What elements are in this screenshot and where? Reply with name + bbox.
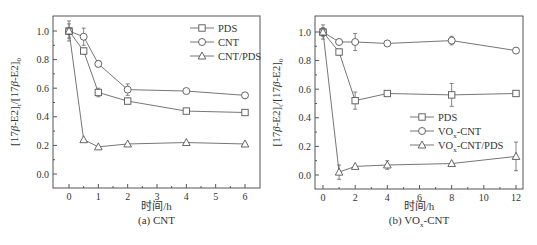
legend-label: CNT/PDS [218,51,261,62]
x-tick-label: 12 [511,192,521,203]
data-point-circle [384,40,391,47]
data-point-square [183,108,189,114]
y-tick-label: 0.6 [37,83,50,94]
data-point-circle [80,33,87,40]
y-tick-label: 1.0 [299,27,312,38]
data-point-square [352,97,358,103]
y-tick-label: 0.6 [299,84,312,95]
chart-panel-b: 0.00.20.40.60.81.0024681012时间/h(b) VOx-C… [270,16,523,229]
legend-label: PDS [218,23,237,34]
y-tick-label: 0.2 [299,141,312,152]
data-point-circle [242,92,249,99]
data-point-triangle [80,136,88,143]
data-point-triangle [183,139,191,146]
y-axis-label: [17β-E2]t/[17β-E2]0 [270,58,285,146]
legend-text-part: -CNT/PDS [457,140,504,151]
y-tick-label: 0.4 [299,112,312,123]
panel-caption: (b) VOx-CNT [389,214,450,229]
series-vox-cnt [320,25,520,54]
series-pds [320,28,519,110]
data-point-circle [95,60,102,67]
y-tick-label: 0.8 [299,55,312,66]
y-label-part: [17 [8,131,20,146]
data-point-circle [513,47,520,54]
x-tick-label: 0 [321,192,326,203]
data-point-square [80,48,86,54]
y-tick-label: 0.0 [37,169,50,180]
data-point-circle [183,88,190,95]
legend-marker-square [199,25,205,31]
series-vox-cnt-pds [319,28,520,179]
y-label-part: -E2] [270,107,282,127]
legend-label: PDS [438,112,457,123]
panel-caption: (a) CNT [138,214,175,227]
legend-marker-triangle [198,52,206,59]
x-tick-label: 2 [125,191,130,202]
legend-text-part: VO [438,140,454,151]
x-tick-label: 1 [96,191,101,202]
legend: PDSCNTCNT/PDS [190,23,261,62]
y-label-part: [17 [270,131,282,146]
chart-panel-a: 0.00.20.40.60.81.00123456时间/h(a) CNT[17β… [8,16,261,227]
legend-label: CNT [218,37,240,48]
data-point-square [336,49,342,55]
legend-marker-circle [199,39,206,46]
legend-label: VOx-CNT/PDS [438,140,504,154]
data-point-square [513,90,519,96]
x-tick-label: 4 [385,192,390,203]
y-axis-label: [17β-E2]t/[17β-E2]0 [8,58,23,146]
y-tick-label: 0.2 [37,140,50,151]
x-tick-label: 5 [213,191,218,202]
data-point-triangle [512,152,520,159]
y-label-part: /[17 [8,86,20,104]
x-axis-label: 时间/h [141,200,172,212]
legend-label: VOx-CNT [438,126,482,140]
x-tick-label: 10 [479,192,489,203]
legend-marker-square [419,114,425,120]
legend-marker-circle [419,128,426,135]
data-point-square [242,109,248,115]
data-point-square [124,98,130,104]
y-label-part: -E2] [8,62,20,82]
y-tick-label: 1.0 [37,26,50,37]
legend-text-part: -CNT [457,126,482,137]
data-point-square [448,92,454,98]
data-point-circle [124,86,131,93]
x-tick-label: 2 [353,192,358,203]
data-point-circle [352,39,359,46]
data-point-circle [336,39,343,46]
x-tick-label: 8 [449,192,454,203]
y-label-part: -E2] [8,106,20,126]
y-tick-label: 0.4 [37,111,50,122]
figure: 0.00.20.40.60.81.00123456时间/h(a) CNT[17β… [0,0,537,245]
caption-suffix: -CNT [424,214,450,226]
y-tick-label: 0.0 [299,170,312,181]
y-label-part: -E2] [270,62,282,82]
y-label-part: /[17 [270,87,282,105]
data-point-square [95,89,101,95]
legend: PDSVOx-CNTVOx-CNT/PDS [410,112,504,154]
legend-text-part: VO [438,126,454,137]
x-tick-label: 0 [67,191,72,202]
x-tick-label: 4 [184,191,189,202]
caption-prefix: (b) VO [389,214,420,227]
x-tick-label: 6 [243,191,248,202]
x-axis-label: 时间/h [404,200,435,212]
data-point-circle [448,37,455,44]
y-label-part: 0 [15,58,23,62]
y-label-part: 0 [277,58,285,62]
y-tick-label: 0.8 [37,54,50,65]
data-point-square [384,90,390,96]
legend-marker-triangle [418,141,426,148]
